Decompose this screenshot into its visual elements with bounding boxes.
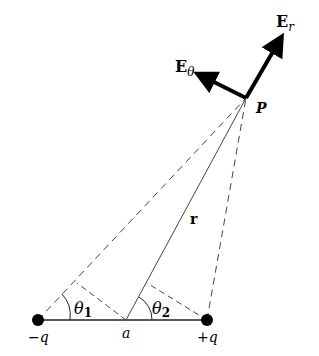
pos-charge-label: +q <box>197 329 218 345</box>
a-label: a <box>122 325 130 341</box>
e-theta-label: Eθ <box>175 57 195 79</box>
theta1-arc <box>62 294 70 320</box>
dipole-diagram: Er Eθ P r θ1 θ2 a −q +q <box>0 0 319 356</box>
negative-charge-dot <box>32 314 44 326</box>
dashed-line-pos-q-to-p <box>207 98 246 320</box>
theta2-label: θ2 <box>152 299 170 320</box>
e-r-arrow <box>246 43 278 98</box>
theta1-label: θ1 <box>74 299 92 320</box>
r-vector-line <box>126 98 246 320</box>
e-r-label: Er <box>276 12 295 34</box>
e-theta-arrow <box>204 77 246 98</box>
theta2-arc <box>139 297 152 320</box>
positive-charge-dot <box>201 314 213 326</box>
r-label: r <box>190 211 198 227</box>
dashed-line-neg-q-to-p <box>38 98 246 320</box>
point-p-label: P <box>255 100 267 116</box>
neg-charge-label: −q <box>28 329 49 345</box>
